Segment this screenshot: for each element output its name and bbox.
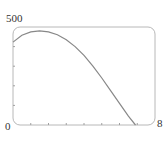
plot-frame [13, 27, 155, 125]
chart-plot [0, 0, 168, 143]
axis-ticks [13, 47, 137, 125]
data-curve [13, 31, 136, 125]
